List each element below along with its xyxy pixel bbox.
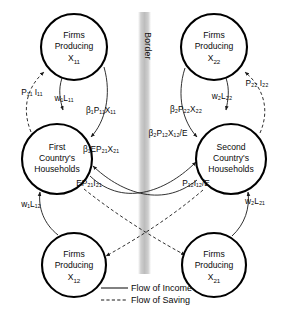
node-label-line1: Firms [63, 249, 84, 259]
node-firms-x22[interactable]: Firms Producing X22 [181, 14, 247, 80]
edge-label-p11-i11: P₁₁ I₁₁ [21, 87, 43, 97]
node-label-line2: Country's [213, 153, 249, 163]
node-label-line2: Producing [195, 260, 234, 270]
edge-label-p22-i22: P₂₂ I₂₂ [245, 78, 268, 88]
edge-label-p12-i12: P₁₂I₁₂/E [182, 178, 210, 188]
diagram-canvas: Firms Producing X11 Firms Producing X22 … [0, 0, 288, 318]
edge-label-beta1-ep21-x21: β₁EP₂₁X₂₁ [83, 144, 119, 154]
edge-beta2-p22-x22 [181, 68, 197, 137]
legend-label-saving: Flow of Saving [131, 295, 190, 305]
figure-circular-flow-diagram: Firms Producing X11 Firms Producing X22 … [0, 0, 288, 318]
edge-label-w2-l21: w₂L₂₁ [244, 196, 265, 206]
edge-label-beta2-p12-x12: β₂P₁₂X₁₂/E [149, 128, 188, 138]
edge-label-w1-l12: w₁L₁₂ [20, 199, 40, 209]
node-label-line1: Firms [203, 249, 224, 259]
node-label-line3: Households [208, 164, 253, 174]
edge-label-w1-l11: w₁L₁₁ [53, 93, 73, 103]
edge-p11-i11 [26, 72, 44, 132]
edge-label-beta1-p11-x11: β₁P₁₁X₁₁ [86, 105, 116, 115]
legend: Flow of Income Flow of Saving [101, 283, 192, 305]
node-label-line3: Households [34, 164, 79, 174]
border-label: Border [143, 32, 153, 60]
edge-label-w2-l22: w₂L₂₂ [211, 91, 232, 101]
edge-label-ep21-i21: EP₂₁I₂₁ [76, 178, 102, 188]
node-label-line2: Producing [55, 260, 94, 270]
edge-label-beta2-p22-x22: β₂P₂₂X₂₂ [170, 104, 202, 114]
node-label-line2: Producing [195, 41, 234, 51]
node-label-line1: First [49, 142, 66, 152]
node-firms-x11[interactable]: Firms Producing X11 [41, 14, 107, 80]
node-label-line2: Country's [39, 153, 75, 163]
node-label-line1: Firms [203, 30, 224, 40]
edge-beta1-p11-x11 [91, 67, 107, 137]
legend-label-income: Flow of Income [131, 283, 192, 293]
node-label-line1: Second [216, 142, 245, 152]
node-label-line2: Producing [55, 41, 94, 51]
edge-w1-l12 [40, 192, 58, 235]
node-firms-x12[interactable]: Firms Producing X12 [42, 233, 106, 297]
node-label-line1: Firms [63, 30, 84, 40]
